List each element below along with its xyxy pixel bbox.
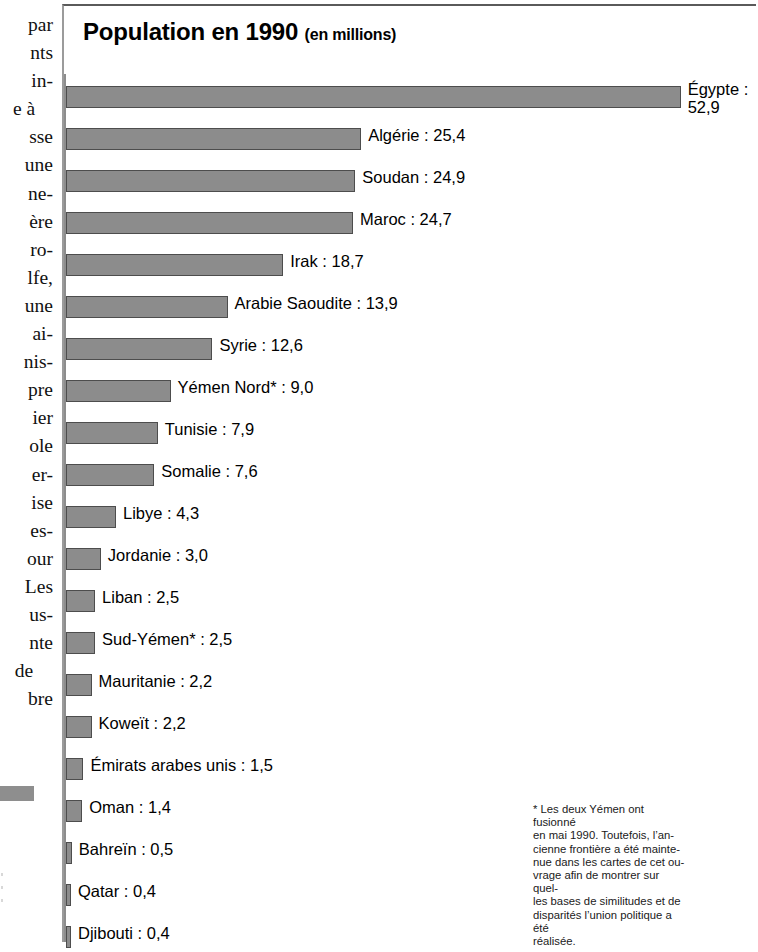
bar-label: Liban : 2,5 xyxy=(102,588,179,606)
bar-label: Égypte :52,9 xyxy=(688,81,749,116)
bar-label: Yémen Nord* : 9,0 xyxy=(178,378,314,396)
bar-label: Émirats arabes unis : 1,5 xyxy=(90,756,273,774)
margin-text-line: ère xyxy=(0,208,56,236)
bar-irak xyxy=(66,254,283,276)
bar-label: Oman : 1,4 xyxy=(89,798,171,816)
footnote-line: nue dans les cartes de cet ou- xyxy=(533,856,685,869)
bar-jordanie xyxy=(66,548,101,570)
bar-alg-rie xyxy=(66,128,361,150)
margin-text-line: lfe, xyxy=(0,264,56,292)
bar-y-men-nord xyxy=(66,380,171,402)
bar-label: Algérie : 25,4 xyxy=(368,126,465,144)
chart-footnote: * Les deux Yémen ont fusionnéen mai 1990… xyxy=(533,803,685,948)
bar-label: Irak : 18,7 xyxy=(290,252,363,270)
margin-faint-mark xyxy=(1,886,3,889)
margin-faint-mark xyxy=(1,873,3,876)
footnote-line: en mai 1990. Toutefois, l’an- xyxy=(533,829,685,842)
margin-text-line: in- xyxy=(0,67,56,95)
margin-text-line: nts xyxy=(0,39,56,67)
margin-text-line: ro- xyxy=(0,236,56,264)
margin-text-line: une xyxy=(0,292,56,320)
chart-title-subtitle: (en millions) xyxy=(305,26,397,43)
bar-syrie xyxy=(66,338,212,360)
margin-text-line: e à xyxy=(0,95,56,123)
footnote-line: vrage afin de montrer sur quel- xyxy=(533,869,685,895)
margin-text-line: ise xyxy=(0,489,56,517)
footnote-line: cienne frontière a été mainte- xyxy=(533,843,685,856)
bar-label: Arabie Saoudite : 13,9 xyxy=(235,294,398,312)
bar-label-name: Égypte : xyxy=(688,80,749,98)
bar-bahre-n xyxy=(66,842,72,864)
bar-label: Somalie : 7,6 xyxy=(161,462,257,480)
margin-text-line: de xyxy=(0,657,56,685)
bar-arabie-saoudite xyxy=(66,296,228,318)
footnote-line: les bases de similitudes et de xyxy=(533,895,685,908)
bar-libye xyxy=(66,506,116,528)
bar-label: Tunisie : 7,9 xyxy=(165,420,254,438)
margin-text-line: es- xyxy=(0,517,56,545)
bar-oman xyxy=(66,800,82,822)
bar-label: Sud-Yémen* : 2,5 xyxy=(102,630,232,648)
margin-text-line: ole xyxy=(0,432,56,460)
chart-title-main: Population en 1990 xyxy=(83,18,298,45)
bar-label: Qatar : 0,4 xyxy=(78,882,156,900)
bar-mauritanie xyxy=(66,674,92,696)
margin-faint-mark xyxy=(1,899,3,902)
bar-label-value: 52,9 xyxy=(688,98,720,116)
bar-label: Mauritanie : 2,2 xyxy=(99,672,213,690)
margin-text-line: bre xyxy=(0,685,56,713)
bar-qatar xyxy=(66,884,71,906)
bar-somalie xyxy=(66,464,154,486)
margin-text-line: our xyxy=(0,545,56,573)
bar-label: Soudan : 24,9 xyxy=(362,168,465,186)
bar-djibouti xyxy=(66,926,71,948)
bar-kowe-t xyxy=(66,716,92,738)
margin-text-line: pre xyxy=(0,376,56,404)
chart-title: Population en 1990 (en millions) xyxy=(83,18,396,46)
margin-text-line: sse xyxy=(0,123,56,151)
bar-label: Syrie : 12,6 xyxy=(219,336,302,354)
bar-sud-y-men xyxy=(66,632,95,654)
margin-text-line: Les xyxy=(0,573,56,601)
margin-text-line: ai- xyxy=(0,320,56,348)
bar-label: Koweït : 2,2 xyxy=(99,714,186,732)
margin-text-line: er- xyxy=(0,461,56,489)
margin-text-line: ier xyxy=(0,404,56,432)
margin-text-line: nte xyxy=(0,629,56,657)
bar-label: Bahreïn : 0,5 xyxy=(79,840,173,858)
margin-text-line: us- xyxy=(0,601,56,629)
margin-text-line: nis- xyxy=(0,348,56,376)
footnote-line: réalisée. xyxy=(533,935,685,948)
bar-label: Libye : 4,3 xyxy=(123,504,199,522)
bar-tunisie xyxy=(66,422,158,444)
margin-text-line: une xyxy=(0,151,56,179)
margin-text-line: ne- xyxy=(0,180,56,208)
footnote-line: * Les deux Yémen ont fusionné xyxy=(533,803,685,829)
bar-maroc xyxy=(66,212,353,234)
bar-mirats-arabes-unis xyxy=(66,758,83,780)
bar-label: Jordanie : 3,0 xyxy=(108,546,208,564)
bar-gypte xyxy=(66,86,681,108)
bar-liban xyxy=(66,590,95,612)
bar-label: Djibouti : 0,4 xyxy=(78,924,170,942)
margin-gray-block xyxy=(0,786,34,801)
bar-label: Maroc : 24,7 xyxy=(360,210,452,228)
footnote-line: disparités l’union politique a été xyxy=(533,909,685,935)
margin-text-line: par xyxy=(0,11,56,39)
bar-soudan xyxy=(66,170,355,192)
